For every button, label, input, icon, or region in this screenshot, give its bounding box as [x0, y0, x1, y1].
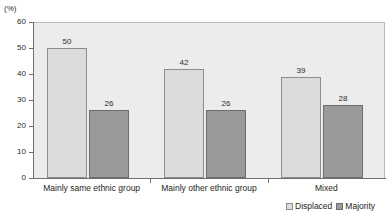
- legend-item-majority[interactable]: Majority: [336, 201, 375, 211]
- y-axis-tick: [29, 152, 33, 153]
- bar-displaced-2[interactable]: [281, 77, 321, 178]
- bar-majority-2[interactable]: [323, 105, 363, 178]
- y-axis-tick: [29, 74, 33, 75]
- y-axis-tick-label: 20: [17, 122, 26, 130]
- bar-value-label: 26: [206, 99, 246, 108]
- legend-label-majority: Majority: [345, 201, 375, 211]
- y-axis-tick: [29, 48, 33, 49]
- bar-value-label: 42: [164, 58, 204, 67]
- y-axis-tick-label: 60: [17, 18, 26, 26]
- y-axis-tick-label: 0: [22, 174, 26, 182]
- y-axis-tick-label: 30: [17, 96, 26, 104]
- bar-displaced-1[interactable]: [164, 69, 204, 178]
- bar-chart: (%) 0102030405060 502642263928 Mainly sa…: [0, 0, 392, 216]
- bar-majority-0[interactable]: [89, 110, 129, 178]
- y-axis-tick: [29, 178, 33, 179]
- y-axis-unit-caption: (%): [4, 4, 16, 13]
- category-label: Mainly same ethnic group: [33, 183, 150, 193]
- legend-swatch-majority-icon: [336, 203, 343, 210]
- bar-value-label: 50: [47, 37, 87, 46]
- y-axis-tick-label: 10: [17, 148, 26, 156]
- category-label: Mixed: [268, 183, 385, 193]
- bar-displaced-0[interactable]: [47, 48, 87, 178]
- y-axis-line: [33, 22, 34, 179]
- y-axis-tick: [29, 22, 33, 23]
- y-axis-tick-label: 50: [17, 44, 26, 52]
- legend-label-displaced: Displaced: [295, 201, 332, 211]
- category-label: Mainly other ethnic group: [150, 183, 267, 193]
- legend-swatch-displaced-icon: [286, 203, 293, 210]
- bar-value-label: 28: [323, 94, 363, 103]
- y-axis-tick: [29, 100, 33, 101]
- x-axis-line: [33, 178, 386, 179]
- bar-value-label: 39: [281, 66, 321, 75]
- chart-legend: Displaced Majority: [286, 201, 375, 211]
- legend-item-displaced[interactable]: Displaced: [286, 201, 332, 211]
- y-axis-tick: [29, 126, 33, 127]
- bar-value-label: 26: [89, 99, 129, 108]
- y-axis-tick-label: 40: [17, 70, 26, 78]
- bar-majority-1[interactable]: [206, 110, 246, 178]
